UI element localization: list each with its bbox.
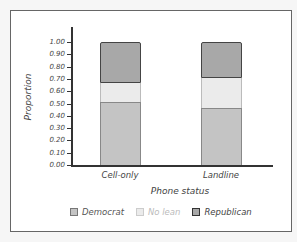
y-tick: [67, 165, 72, 166]
y-tick-label: 0.70: [30, 75, 65, 83]
legend-item-republican: Republican: [192, 207, 251, 217]
legend-item-democrat: Democrat: [70, 207, 124, 217]
stacked-bar-chart: 0.000.100.200.300.400.500.600.700.800.90…: [0, 0, 297, 242]
bar-segment-no-lean: [100, 83, 141, 103]
legend-swatch-icon: [70, 208, 78, 216]
x-tick-label: Cell-only: [80, 170, 160, 180]
y-tick-label: 0.00: [30, 161, 65, 169]
legend-swatch-icon: [136, 208, 144, 216]
bar-segment-democrat: [100, 102, 141, 165]
legend: DemocratNo leanRepublican: [70, 205, 252, 219]
y-tick-label: 0.60: [30, 87, 65, 95]
x-axis-title: Phone status: [120, 186, 240, 196]
y-tick: [67, 42, 72, 43]
y-axis-title: Proportion: [23, 67, 33, 127]
y-tick: [67, 104, 72, 105]
y-tick-label: 0.30: [30, 124, 65, 132]
y-tick: [67, 140, 72, 141]
y-tick: [67, 116, 72, 117]
bar-segment-no-lean: [201, 78, 242, 109]
y-tick-label: 0.10: [30, 149, 65, 157]
y-tick-label: 0.50: [30, 100, 65, 108]
y-tick: [67, 79, 72, 80]
legend-swatch-icon: [192, 208, 200, 216]
y-tick-label: 1.00: [30, 38, 65, 46]
x-tick-label: Landline: [181, 170, 261, 180]
y-tick-label: 0.80: [30, 63, 65, 71]
bar-segment-democrat: [201, 108, 242, 165]
y-tick: [67, 91, 72, 92]
y-tick: [67, 153, 72, 154]
legend-label: Democrat: [82, 207, 124, 217]
y-tick-label: 0.90: [30, 50, 65, 58]
bar-segment-republican: [100, 42, 141, 83]
y-axis: [71, 27, 73, 166]
y-tick: [67, 54, 72, 55]
y-tick-label: 0.40: [30, 112, 65, 120]
legend-label: Republican: [204, 207, 251, 217]
legend-item-no-lean: No lean: [136, 207, 180, 217]
legend-label: No lean: [148, 207, 180, 217]
y-tick: [67, 67, 72, 68]
bar-segment-republican: [201, 42, 242, 78]
y-tick-label: 0.20: [30, 136, 65, 144]
y-tick: [67, 128, 72, 129]
